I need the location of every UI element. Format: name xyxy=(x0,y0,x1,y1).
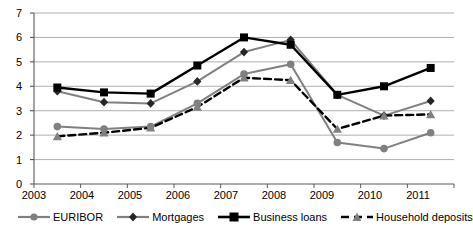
square-marker-icon xyxy=(218,210,250,224)
diamond-marker-icon xyxy=(117,210,149,224)
legend-label: EURIBOR xyxy=(53,210,103,224)
triangle-marker-icon xyxy=(341,210,373,224)
chart-legend: EURIBOR Mortgages Business loans xyxy=(18,207,448,227)
legend-item-business-loans[interactable]: Business loans xyxy=(218,208,327,226)
legend-item-mortgages[interactable]: Mortgages xyxy=(117,208,204,226)
x-tick-marks xyxy=(34,184,454,188)
legend-item-household-deposits[interactable]: Household deposits xyxy=(341,208,473,226)
legend-label: Business loans xyxy=(253,210,327,224)
legend-item-euribor[interactable]: EURIBOR xyxy=(18,208,103,226)
legend-label: Household deposits xyxy=(376,210,473,224)
legend-label: Mortgages xyxy=(152,210,204,224)
circle-marker-icon xyxy=(18,210,50,224)
